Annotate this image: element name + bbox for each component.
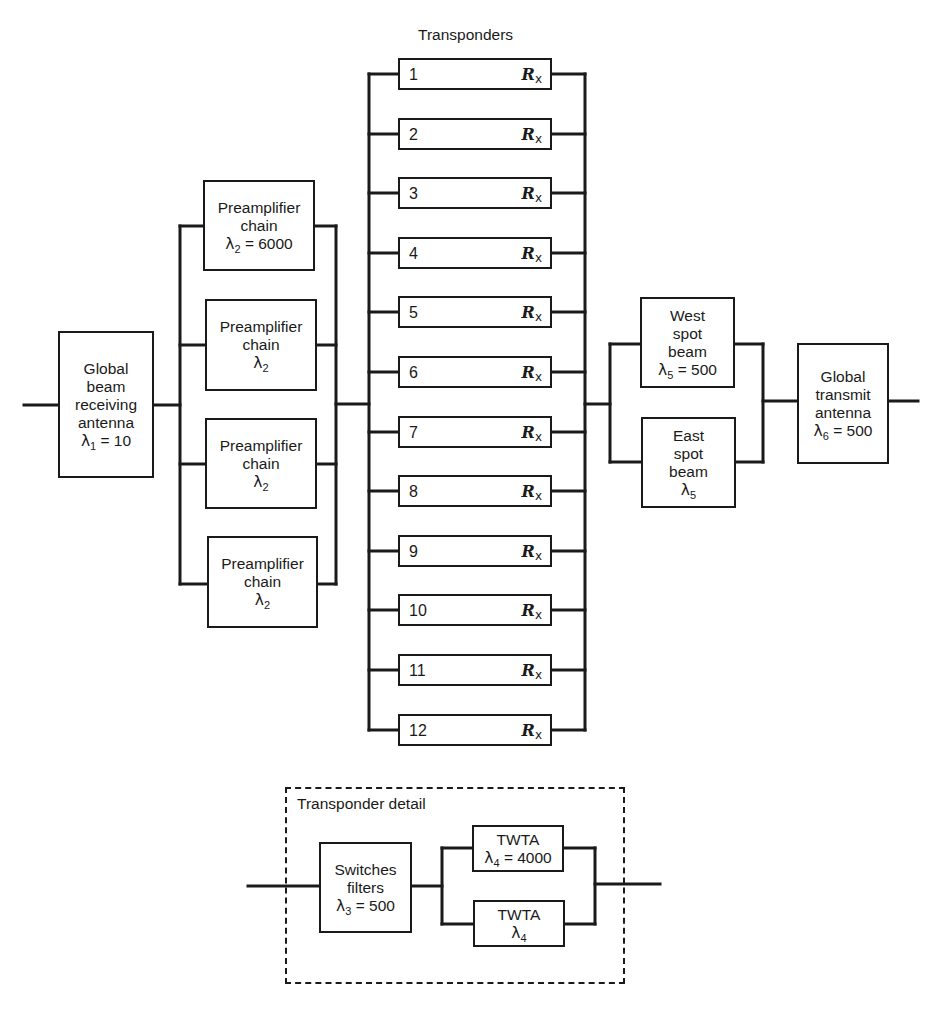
lambda-value: = 500 [351, 897, 395, 914]
lambda-subscript: 2 [263, 362, 269, 374]
reliability-subscript: x [535, 251, 542, 265]
reliability-symbol: R [522, 661, 535, 680]
block-label-line: Preamplifier [220, 437, 303, 455]
lambda-symbol: λ [511, 924, 520, 942]
preamplifier-chain-block-2: Preamplifier chain λ2 [205, 299, 317, 391]
block-label-line: Global [84, 360, 129, 378]
lambda-value: = 6000 [241, 235, 293, 252]
lambda-subscript: 4 [521, 932, 527, 944]
transponders-heading: Transponders [418, 26, 513, 44]
reliability-label: Rx [522, 661, 542, 680]
block-label-line: chain [244, 573, 281, 591]
lambda-symbol: λ [814, 422, 823, 440]
reliability-label: Rx [522, 363, 542, 382]
reliability-subscript: x [535, 728, 542, 742]
failure-rate-label: λ2 = 6000 [225, 235, 292, 253]
reliability-symbol: R [522, 303, 535, 322]
block-label-line: filters [347, 879, 384, 897]
lambda-subscript: 5 [690, 489, 696, 501]
reliability-label: Rx [522, 423, 542, 442]
reliability-label: Rx [522, 542, 542, 561]
reliability-subscript: x [535, 549, 542, 563]
west-spot-beam-block: West spot beam λ5 = 500 [640, 297, 735, 388]
block-label-line: West [670, 307, 705, 325]
failure-rate-label: λ1 = 10 [81, 432, 131, 450]
block-label-line: TWTA [497, 831, 540, 849]
block-label-line: receiving [75, 396, 137, 414]
transponder-block-1: 1 Rx [398, 58, 552, 90]
block-label-line: Preamplifier [218, 199, 301, 217]
block-label-line: Global [821, 368, 866, 386]
failure-rate-label: λ2 [253, 354, 268, 372]
lambda-symbol: λ [81, 432, 90, 450]
transponder-number: 8 [409, 483, 418, 501]
block-label-line: spot [674, 445, 703, 463]
transponder-block-10: 10 Rx [398, 594, 552, 626]
block-label-line: East [673, 427, 704, 445]
transponder-number: 9 [409, 543, 418, 561]
reliability-label: Rx [522, 303, 542, 322]
block-label-line: antenna [78, 414, 134, 432]
block-label-line: TWTA [498, 906, 541, 924]
reliability-symbol: R [522, 125, 535, 144]
global-receive-antenna-block: Global beam receiving antenna λ1 = 10 [58, 331, 154, 478]
reliability-subscript: x [535, 132, 542, 146]
failure-rate-label: λ5 [681, 481, 696, 499]
reliability-symbol: R [522, 542, 535, 561]
block-label-line: spot [673, 325, 702, 343]
reliability-subscript: x [535, 668, 542, 682]
block-label-line: transmit [815, 386, 870, 404]
reliability-subscript: x [535, 608, 542, 622]
reliability-subscript: x [535, 489, 542, 503]
preamplifier-chain-block-4: Preamplifier chain λ2 [207, 536, 318, 628]
lambda-value: = 4000 [500, 849, 552, 866]
block-label-line: Preamplifier [220, 318, 303, 336]
lambda-symbol: λ [255, 591, 264, 609]
transponder-number: 10 [409, 602, 427, 620]
transponder-block-11: 11 Rx [398, 654, 552, 686]
reliability-symbol: R [522, 65, 535, 84]
block-label-line: beam [669, 463, 708, 481]
transponder-number: 12 [409, 722, 427, 740]
reliability-label: Rx [522, 721, 542, 740]
transponder-number: 5 [409, 304, 418, 322]
transponder-number: 1 [409, 66, 418, 84]
lambda-value: = 500 [673, 361, 717, 378]
switches-filters-block: Switches filters λ3 = 500 [319, 842, 412, 933]
failure-rate-label: λ5 = 500 [658, 361, 717, 379]
lambda-subscript: 2 [263, 481, 269, 493]
reliability-symbol: R [522, 601, 535, 620]
preamplifier-chain-block-1: Preamplifier chain λ2 = 6000 [203, 180, 315, 271]
reliability-label: Rx [522, 601, 542, 620]
reliability-label: Rx [522, 65, 542, 84]
block-label-line: antenna [815, 404, 871, 422]
failure-rate-label: λ4 [511, 924, 526, 942]
lambda-symbol: λ [658, 361, 667, 379]
transponder-detail-label: Transponder detail [297, 795, 426, 813]
transponder-number: 11 [409, 662, 426, 680]
global-transmit-antenna-block: Global transmit antenna λ6 = 500 [797, 343, 889, 464]
reliability-label: Rx [522, 184, 542, 203]
lambda-symbol: λ [253, 354, 262, 372]
transponder-block-5: 5 Rx [398, 296, 552, 328]
block-label-line: beam [87, 378, 126, 396]
reliability-symbol: R [522, 244, 535, 263]
transponder-number: 6 [409, 364, 418, 382]
reliability-symbol: R [522, 363, 535, 382]
failure-rate-label: λ2 [255, 591, 270, 609]
failure-rate-label: λ6 = 500 [814, 422, 873, 440]
reliability-subscript: x [535, 430, 542, 444]
failure-rate-label: λ4 = 4000 [484, 849, 551, 867]
transponder-block-8: 8 Rx [398, 475, 552, 507]
lambda-value: = 10 [96, 432, 131, 449]
twta-block-2: TWTA λ4 [473, 900, 565, 947]
reliability-symbol: R [522, 423, 535, 442]
transponder-block-4: 4 Rx [398, 237, 552, 269]
transponder-block-12: 12 Rx [398, 714, 552, 746]
failure-rate-label: λ2 [253, 473, 268, 491]
block-label-line: chain [242, 336, 279, 354]
block-label-line: chain [240, 217, 277, 235]
lambda-symbol: λ [336, 897, 345, 915]
transponder-block-9: 9 Rx [398, 535, 552, 567]
block-label-line: chain [242, 455, 279, 473]
